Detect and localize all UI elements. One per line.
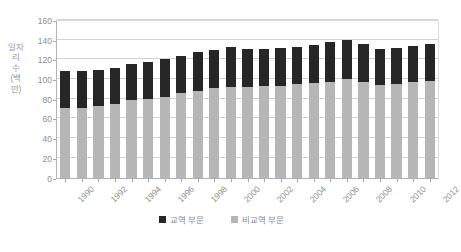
- x-tick-mark: [330, 179, 331, 183]
- bar-2003: [275, 48, 285, 178]
- bar-1995: [143, 62, 153, 178]
- bar-segment-nontrade: [226, 87, 236, 178]
- x-tick-mark: [115, 179, 116, 183]
- x-tick-label: 2000: [241, 184, 261, 204]
- bar-segment-nontrade: [209, 88, 219, 178]
- bar-1999: [209, 50, 219, 178]
- x-tick-mark: [231, 179, 232, 183]
- bar-segment-nontrade: [193, 91, 203, 178]
- x-tick-mark: [98, 179, 99, 183]
- chart-legend: 교역 부문비교역 부문: [0, 213, 443, 225]
- x-tick-mark: [65, 179, 66, 183]
- x-tick-mark: [297, 179, 298, 183]
- bar-2011: [408, 46, 418, 178]
- bar-segment-nontrade: [408, 82, 418, 178]
- bar-segment-nontrade: [391, 84, 401, 178]
- x-tick-mark: [347, 179, 348, 183]
- x-tick-mark: [363, 179, 364, 183]
- bar-segment-nontrade: [242, 87, 252, 178]
- bar-segment-trade: [242, 49, 252, 87]
- bar-2005: [309, 45, 319, 178]
- bar-segment-trade: [60, 71, 70, 108]
- bar-segment-nontrade: [358, 82, 368, 178]
- x-tick-mark: [214, 179, 215, 183]
- x-tick-label: 1992: [109, 184, 129, 204]
- y-tick-mark: [53, 100, 56, 101]
- bar-2008: [358, 44, 368, 178]
- bar-1996: [160, 59, 170, 178]
- y-axis-title: 일자리 수 (백만): [7, 42, 25, 94]
- bar-segment-trade: [93, 70, 103, 106]
- bar-segment-trade: [391, 48, 401, 85]
- x-tick-label: 2010: [407, 184, 427, 204]
- x-tick-mark: [181, 179, 182, 183]
- y-tick-mark: [53, 179, 56, 180]
- y-tick-mark: [53, 159, 56, 160]
- y-tick-label: 120: [10, 55, 52, 65]
- y-tick-mark: [53, 119, 56, 120]
- legend-swatch-nontrade: [231, 216, 238, 223]
- bar-2006: [325, 42, 335, 178]
- y-tick-label: 160: [10, 16, 52, 26]
- bar-segment-nontrade: [143, 99, 153, 178]
- legend-item[interactable]: 비교역 부문: [231, 213, 284, 225]
- x-tick-mark: [397, 179, 398, 183]
- bar-segment-nontrade: [77, 108, 87, 178]
- bar-segment-trade: [160, 59, 170, 97]
- x-tick-label: 2012: [440, 184, 460, 204]
- bar-segment-trade: [375, 49, 385, 85]
- bar-1991: [77, 71, 87, 178]
- bar-2004: [292, 47, 302, 178]
- legend-label: 비교역 부문: [242, 213, 284, 225]
- x-tick-label: 2002: [275, 184, 295, 204]
- legend-item[interactable]: 교역 부문: [159, 213, 204, 225]
- x-tick-mark: [248, 179, 249, 183]
- legend-label: 교역 부문: [170, 213, 204, 225]
- x-tick-mark: [198, 179, 199, 183]
- bar-1994: [126, 64, 136, 178]
- bar-segment-nontrade: [176, 93, 186, 178]
- bar-2002: [259, 49, 269, 178]
- bar-1998: [193, 52, 203, 178]
- x-tick-label: 2008: [374, 184, 394, 204]
- bar-segment-trade: [408, 46, 418, 82]
- x-tick-label: 1994: [142, 184, 162, 204]
- y-tick-label: 140: [10, 36, 52, 46]
- bar-segment-nontrade: [425, 81, 435, 178]
- y-tick-mark: [53, 21, 56, 22]
- bar-segment-nontrade: [60, 108, 70, 178]
- bar-2010: [391, 48, 401, 178]
- y-tick-label: 40: [10, 134, 52, 144]
- x-tick-mark: [314, 179, 315, 183]
- bar-segment-nontrade: [259, 86, 269, 178]
- y-tick-mark: [53, 60, 56, 61]
- bar-segment-trade: [275, 48, 285, 86]
- bar-segment-nontrade: [325, 82, 335, 178]
- bar-2012: [425, 44, 435, 178]
- bar-segment-nontrade: [375, 85, 385, 178]
- bar-segment-trade: [292, 47, 302, 84]
- y-tick-label: 60: [10, 114, 52, 124]
- bar-1993: [110, 68, 120, 178]
- y-tick-label: 100: [10, 75, 52, 85]
- x-tick-mark: [165, 179, 166, 183]
- bar-2009: [375, 49, 385, 178]
- bar-segment-trade: [425, 44, 435, 80]
- x-tick-mark: [430, 179, 431, 183]
- bar-segment-trade: [110, 68, 120, 104]
- x-tick-mark: [380, 179, 381, 183]
- y-tick-mark: [53, 41, 56, 42]
- y-tick-mark: [53, 80, 56, 81]
- bar-segment-nontrade: [309, 83, 319, 178]
- bar-1992: [93, 70, 103, 178]
- bar-segment-trade: [176, 56, 186, 93]
- bars-group: [57, 21, 438, 179]
- y-tick-label: 0: [10, 174, 52, 184]
- bar-segment-trade: [77, 71, 87, 108]
- bar-segment-trade: [309, 45, 319, 83]
- bar-2007: [342, 40, 352, 178]
- bar-1990: [60, 71, 70, 178]
- y-tick-mark: [53, 139, 56, 140]
- bar-2000: [226, 47, 236, 178]
